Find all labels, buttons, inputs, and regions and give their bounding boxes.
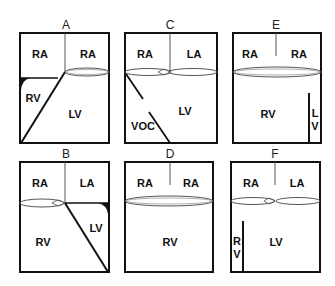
label-la: RA (80, 48, 96, 60)
label-ra: RA (32, 177, 48, 189)
label-rv: RV (260, 108, 276, 120)
label-rv: RV (25, 92, 41, 104)
label-la: LA (187, 48, 202, 60)
label-ra-left: RA (242, 48, 258, 60)
panel-b-title: B (62, 147, 70, 161)
label-ra-left: RA (137, 177, 153, 189)
label-voc: VOC (131, 120, 155, 132)
label-rv-v: V (233, 248, 241, 260)
label-la: LA (290, 177, 305, 189)
label-la: LA (80, 177, 95, 189)
label-lv-v: V (311, 120, 319, 132)
panel-d: D RA RA RV (125, 147, 213, 272)
panel-e-title: E (272, 18, 280, 32)
label-lv: LV (68, 108, 82, 120)
label-ra-right: RA (291, 48, 307, 60)
panel-c-title: C (166, 18, 175, 32)
panel-a: A RA RA RV LV (20, 18, 109, 143)
panel-e: E RA RA RV L V (233, 18, 321, 143)
panel-d-title: D (166, 147, 175, 161)
label-lv: LV (178, 105, 192, 117)
label-rv: RV (35, 236, 51, 248)
panel-b: B RA LA LV RV (20, 147, 109, 272)
label-rv: RV (162, 236, 178, 248)
panel-f: F RA LA LV R V (231, 147, 320, 272)
panel-a-title: A (62, 18, 70, 32)
label-lv: LV (89, 222, 103, 234)
label-ra-right: RA (183, 177, 199, 189)
panel-c: C RA LA VOC LV (125, 18, 217, 143)
heart-diagram: A RA RA RV LV C RA LA VOC LV E RA RA (0, 0, 335, 286)
panel-f-title: F (271, 147, 278, 161)
label-lv-l: L (312, 107, 319, 119)
label-rv-r: R (233, 235, 241, 247)
label-ra: RA (32, 48, 48, 60)
label-ra: RA (243, 177, 259, 189)
label-ra: RA (137, 48, 153, 60)
label-lv: LV (269, 236, 283, 248)
